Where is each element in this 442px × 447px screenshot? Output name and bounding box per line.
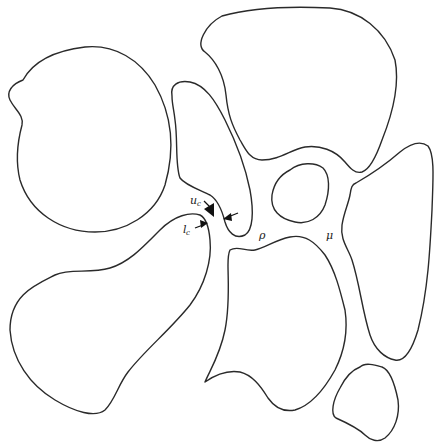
grain-right-wedge xyxy=(342,143,433,360)
right-boundary-arrow xyxy=(223,213,238,221)
grains-group xyxy=(9,7,433,440)
figure-caption-truncated xyxy=(2,440,302,447)
mu-label: μ xyxy=(326,229,333,242)
grain-top-left xyxy=(9,47,171,232)
grain-boundary-figure: u c l c ρ μ xyxy=(0,0,442,447)
uc-label-subscript: c xyxy=(197,200,201,208)
grain-bottom-center xyxy=(205,236,346,410)
grain-top-right xyxy=(201,7,397,172)
grain-bottom-left xyxy=(10,214,210,414)
lc-annotation: l c xyxy=(183,220,208,237)
grain-small-oval xyxy=(272,164,329,223)
rho-label: ρ xyxy=(258,229,266,242)
lc-label-subscript: c xyxy=(186,229,190,237)
grain-bottom-right-small xyxy=(333,364,399,440)
